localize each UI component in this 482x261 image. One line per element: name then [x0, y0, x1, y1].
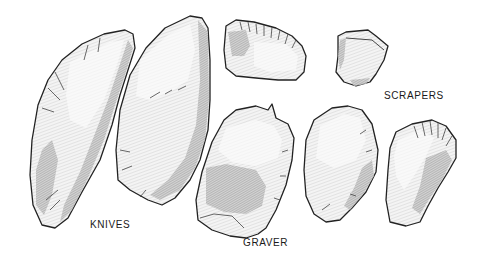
artifact-drawings — [0, 0, 482, 261]
scraper-top-right-drawing — [336, 30, 388, 86]
stone-tools-illustration: KNIVES GRAVER SCRAPERS — [0, 0, 482, 261]
knives-label: KNIVES — [90, 219, 130, 230]
graver-drawing — [196, 104, 294, 238]
scrapers-label: SCRAPERS — [384, 90, 444, 101]
scraper-top-left-drawing — [224, 20, 306, 80]
scraper-right-drawing — [386, 120, 456, 226]
graver-label: GRAVER — [243, 237, 288, 248]
scraper-middle-drawing — [304, 106, 378, 222]
